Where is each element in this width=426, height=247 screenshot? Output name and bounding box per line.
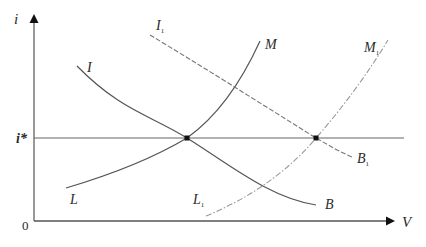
y-axis-label: i bbox=[14, 11, 18, 27]
x-axis-arrow-icon bbox=[386, 217, 395, 226]
origin-label: 0 bbox=[22, 218, 29, 233]
y-axis bbox=[30, 14, 39, 221]
x-axis-label: V bbox=[402, 214, 413, 230]
shifted-equilibrium-point bbox=[314, 136, 319, 141]
curve-B1-label: B1 bbox=[357, 151, 370, 168]
curve-B-label: B bbox=[325, 197, 334, 212]
curve-L-M bbox=[66, 41, 260, 188]
x-axis bbox=[34, 217, 395, 226]
curve-I1-B1 bbox=[150, 35, 352, 157]
curve-I-label: I bbox=[86, 60, 93, 75]
curve-I1-label: I1 bbox=[155, 18, 165, 35]
curve-I-B bbox=[77, 66, 316, 205]
diagram-canvas: i V 0 i* I B L M I1 B1 L1 M1 bbox=[0, 0, 426, 247]
equilibrium-rate-label: i* bbox=[16, 131, 28, 146]
curve-M-label: M bbox=[264, 37, 278, 52]
curve-M1-label: M1 bbox=[363, 40, 380, 57]
curve-L1-label: L1 bbox=[192, 192, 205, 209]
original-equilibrium-point bbox=[185, 136, 190, 141]
curve-L-label: L bbox=[69, 192, 78, 207]
curve-L1-M1 bbox=[206, 40, 388, 216]
y-axis-arrow-icon bbox=[30, 14, 39, 23]
